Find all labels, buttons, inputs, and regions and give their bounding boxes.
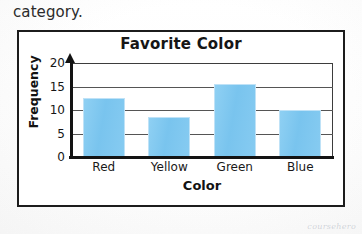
y-tick-label: 0 — [43, 150, 65, 164]
bar-slot — [268, 63, 334, 157]
y-tick-label: 15 — [43, 80, 65, 94]
y-tick-label: 20 — [43, 56, 65, 70]
bar-slot — [202, 63, 268, 157]
y-tick-label: 5 — [43, 127, 65, 141]
chart-figure-box: Favorite Color Frequency 20151050 RedYel… — [17, 30, 345, 207]
x-axis-title: Color — [71, 178, 333, 193]
bar-yellow — [148, 117, 190, 157]
chart-title: Favorite Color — [19, 35, 343, 53]
x-axis-tick-labels: RedYellowGreenBlue — [71, 160, 333, 174]
y-axis-line — [70, 62, 73, 158]
y-tick-label: 10 — [43, 103, 65, 117]
x-tick-label: Green — [202, 160, 268, 174]
y-axis-title: Frequency — [26, 55, 41, 128]
bar-green — [214, 84, 256, 157]
plot-area — [71, 63, 333, 157]
y-axis-arrow-icon — [65, 53, 75, 63]
watermark: coursehero — [307, 222, 356, 231]
bar-blue — [279, 110, 321, 157]
x-tick-label: Red — [71, 160, 137, 174]
bar-slot — [71, 63, 137, 157]
prose-line: category. — [13, 3, 83, 21]
bar-series — [71, 63, 333, 157]
bar-red — [83, 98, 125, 157]
bar-slot — [137, 63, 203, 157]
worksheet-page: category. Favorite Color Frequency 20151… — [0, 0, 362, 234]
y-axis-tick-labels: 20151050 — [43, 63, 65, 157]
x-axis-line — [69, 156, 334, 159]
x-tick-label: Blue — [268, 160, 334, 174]
x-tick-label: Yellow — [137, 160, 203, 174]
